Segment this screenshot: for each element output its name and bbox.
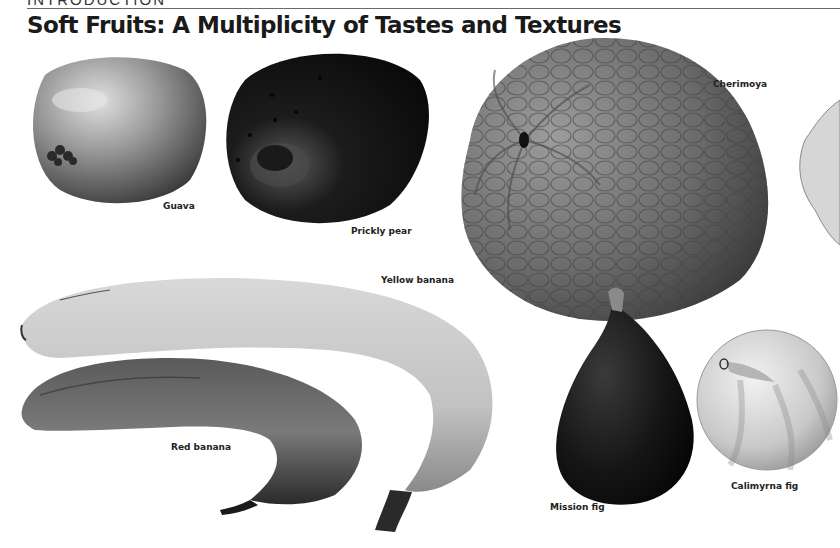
calimyrna-fig-label: Calimyrna fig (731, 481, 798, 491)
mission-fig-label: Mission fig (550, 502, 605, 512)
prickly-pear-label: Prickly pear (351, 226, 412, 236)
mission-fig-icon (556, 288, 694, 505)
prickly-pear-icon (226, 54, 429, 223)
partial-fruit-icon (800, 100, 840, 245)
red-banana-icon (22, 358, 362, 515)
calimyrna-fig-icon (697, 330, 837, 470)
yellow-banana-label: Yellow banana (381, 275, 454, 285)
cherimoya-label: Cherimoya (713, 79, 767, 89)
guava-icon (33, 57, 206, 203)
red-banana-label: Red banana (171, 442, 231, 452)
guava-label: Guava (163, 201, 195, 211)
